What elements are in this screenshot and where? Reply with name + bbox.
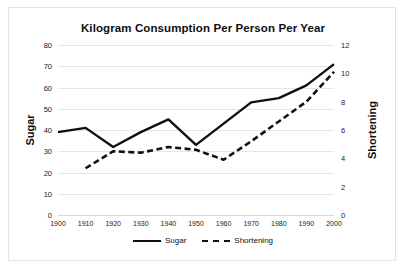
- x-axis-tick-label: 1900: [50, 220, 66, 227]
- x-axis-tick-label: 1940: [161, 220, 177, 227]
- y-axis-left-tick-label: 80: [44, 41, 52, 50]
- x-axis-tick-label: 1990: [299, 220, 315, 227]
- gridline: [58, 215, 334, 216]
- legend-item-shortening[interactable]: Shortening: [202, 236, 273, 245]
- legend-label: Sugar: [165, 236, 186, 245]
- y-axis-left-tick-label: 20: [44, 168, 52, 177]
- legend-item-sugar[interactable]: Sugar: [133, 236, 186, 245]
- y-axis-right-tick-label: 8: [341, 97, 345, 106]
- y-axis-left-label-text: Sugar: [24, 114, 36, 145]
- y-axis-right-tick-label: 10: [341, 69, 349, 78]
- y-axis-left-tick-label: 50: [44, 104, 52, 113]
- series-lines: [58, 45, 334, 215]
- legend-swatch-solid-line-icon: [133, 240, 161, 242]
- plot-area: 01020304050607080 024681012 190019101920…: [58, 45, 334, 215]
- y-axis-right-tick-label: 6: [341, 126, 345, 135]
- y-axis-left-tick-label: 0: [48, 211, 52, 220]
- y-axis-left-tick-label: 60: [44, 83, 52, 92]
- x-axis-tick-label: 1960: [216, 220, 232, 227]
- y-axis-left-tick-label: 40: [44, 126, 52, 135]
- chart-title: Kilogram Consumption Per Person Per Year: [9, 22, 397, 34]
- x-axis-tick-label: 1980: [271, 220, 287, 227]
- chart-legend: SugarShortening: [9, 236, 397, 245]
- series-line-shortening: [86, 72, 334, 168]
- x-axis-tick-label: 1920: [105, 220, 121, 227]
- y-axis-right-tick-label: 2: [341, 182, 345, 191]
- series-line-sugar: [58, 64, 334, 147]
- y-axis-right-tick-label: 0: [341, 211, 345, 220]
- y-axis-right-tick-label: 12: [341, 41, 349, 50]
- y-axis-right-label: Shortening: [365, 45, 379, 215]
- x-axis-tick-label: 1970: [243, 220, 259, 227]
- y-axis-right-label-text: Shortening: [366, 101, 378, 159]
- y-axis-left-tick-label: 10: [44, 189, 52, 198]
- legend-swatch-dashed-line-icon: [202, 240, 230, 242]
- y-axis-left-tick-label: 30: [44, 147, 52, 156]
- y-axis-left-label: Sugar: [23, 45, 37, 215]
- x-axis-tick-label: 1910: [78, 220, 94, 227]
- legend-label: Shortening: [234, 236, 273, 245]
- x-axis-tick-label: 2000: [326, 220, 342, 227]
- chart-container: Kilogram Consumption Per Person Per Year…: [8, 7, 396, 261]
- y-axis-left-tick-label: 70: [44, 62, 52, 71]
- y-axis-right-tick-label: 4: [341, 154, 345, 163]
- x-axis-tick-label: 1930: [133, 220, 149, 227]
- x-axis-tick-label: 1950: [188, 220, 204, 227]
